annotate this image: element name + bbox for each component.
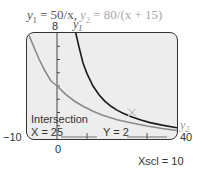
- ymax-label: 8: [52, 20, 58, 32]
- xmin-label: −10: [3, 131, 22, 143]
- y1-curve-label: y1: [73, 17, 82, 33]
- xmax-label: 40: [180, 131, 192, 143]
- equation-title: y1 = 50/x, y2 = 80/(x + 15): [27, 7, 162, 25]
- y2-equation: y2 = 80/(x + 15): [80, 7, 162, 22]
- xscl-label: Xscl = 10: [138, 155, 184, 167]
- x-value: X = 25: [31, 126, 63, 138]
- y1-curve: [76, 33, 177, 128]
- ymin-label: 0: [55, 143, 61, 155]
- calculator-graph-screen: Intersection X = 25 Y = 2: [26, 32, 178, 140]
- y-value: Y = 2: [103, 126, 129, 138]
- intersection-cursor-outline: [128, 109, 136, 117]
- intersection-coordinates: X = 25 Y = 2: [31, 126, 129, 138]
- intersection-label: Intersection: [31, 113, 88, 125]
